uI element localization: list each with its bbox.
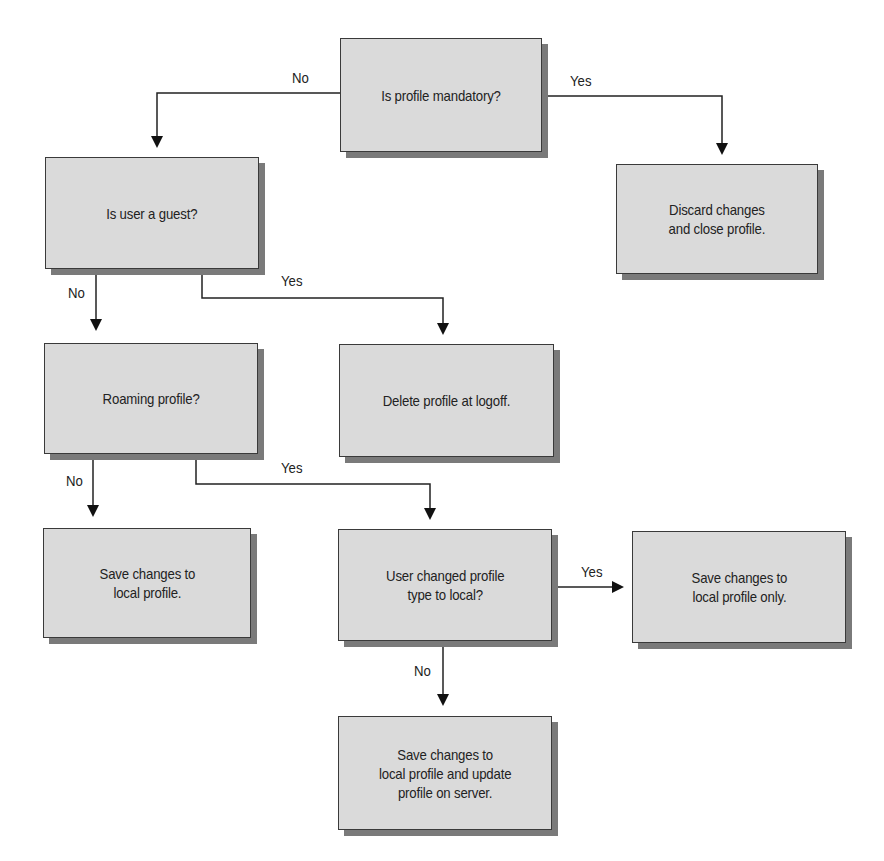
edge-label-yes: Yes [570, 72, 592, 89]
node-text: Save changes to local profile. [99, 564, 195, 602]
node-text: Save changes to local profile and update… [379, 745, 511, 802]
decision-changed-type: User changed profile type to local? [338, 529, 552, 641]
node-text: Is user a guest? [106, 204, 197, 223]
edge-label-no: No [414, 662, 431, 679]
node-text: Delete profile at logoff. [383, 391, 510, 410]
node-text: Save changes to local profile only. [691, 568, 787, 606]
action-save-local-only: Save changes to local profile only. [632, 531, 846, 643]
action-discard-changes: Discard changes and close profile. [616, 164, 818, 274]
node-text: Discard changes and close profile. [669, 200, 766, 238]
node-text: Roaming profile? [103, 389, 200, 408]
decision-profile-mandatory: Is profile mandatory? [340, 38, 542, 152]
edge-label-yes: Yes [281, 272, 303, 289]
decision-user-guest: Is user a guest? [45, 157, 259, 269]
edge-label-yes: Yes [581, 563, 603, 580]
action-save-and-update: Save changes to local profile and update… [338, 716, 552, 830]
edge-label-no: No [68, 284, 85, 301]
action-save-local: Save changes to local profile. [43, 528, 251, 638]
edge-mandatory-guest [157, 93, 340, 146]
decision-roaming-profile: Roaming profile? [44, 343, 258, 454]
node-text: User changed profile type to local? [386, 566, 504, 604]
edge-label-no: No [66, 472, 83, 489]
edge-label-no: No [292, 69, 309, 86]
action-delete-profile: Delete profile at logoff. [339, 344, 554, 457]
edge-label-yes: Yes [281, 459, 303, 476]
node-text: Is profile mandatory? [381, 86, 501, 105]
